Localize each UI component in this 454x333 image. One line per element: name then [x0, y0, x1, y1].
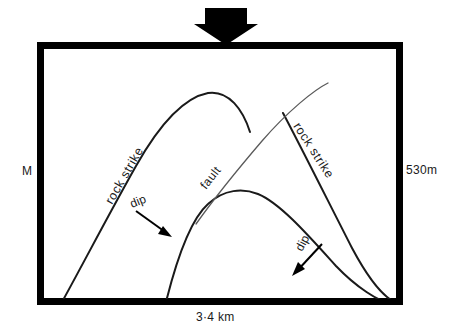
- lower-anticline-outcrop: [166, 191, 388, 303]
- bottom-scale-label: 3·4 km: [196, 310, 234, 324]
- upper-anticline-outcrop: [62, 93, 250, 302]
- right-scale-label: 530m: [406, 163, 437, 177]
- diagram-svg: rock strike rock strike fault dip dip: [0, 0, 454, 333]
- fault-label: fault: [197, 163, 224, 192]
- geological-diagram-canvas: rock strike rock strike fault dip dip M …: [0, 0, 454, 333]
- dip-arrow-left-icon: [136, 211, 172, 237]
- north-arrow-icon: [194, 8, 258, 45]
- left-scale-label: M: [22, 164, 32, 178]
- dip-left-label: dip: [128, 192, 148, 211]
